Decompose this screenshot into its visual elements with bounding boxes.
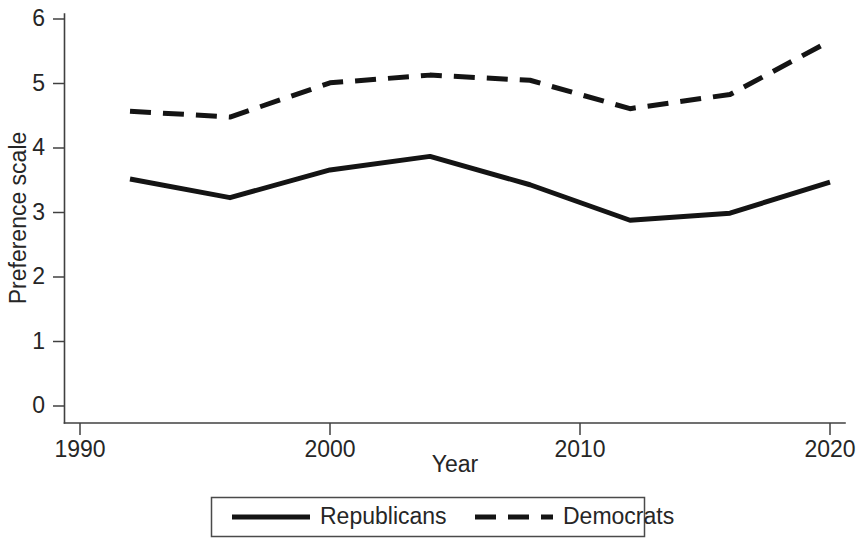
x-tick-label: 2020: [804, 436, 855, 462]
chart-legend: Republicans Democrats: [212, 498, 675, 537]
x-tick-label: 2010: [554, 436, 605, 462]
x-tick-label: 1990: [54, 436, 105, 462]
y-tick-label: 0: [32, 392, 45, 418]
x-axis-title: Year: [432, 451, 479, 477]
data-series-group: [130, 41, 830, 220]
chart-figure: 0123456 1990200020102020 Preference scal…: [0, 0, 856, 540]
x-tick-label: 2000: [304, 436, 355, 462]
y-axis-ticks: 0123456: [32, 5, 64, 418]
legend-label-democrats: Democrats: [563, 503, 674, 529]
y-tick-label: 4: [32, 134, 45, 160]
y-tick-label: 1: [32, 328, 45, 354]
y-tick-label: 2: [32, 263, 45, 289]
series-line-republicans: [130, 156, 830, 220]
series-line-democrats: [130, 41, 830, 117]
line-chart: 0123456 1990200020102020 Preference scal…: [0, 0, 856, 540]
y-tick-label: 6: [32, 5, 45, 31]
legend-label-republicans: Republicans: [320, 503, 447, 529]
y-tick-label: 5: [32, 70, 45, 96]
y-tick-label: 3: [32, 199, 45, 225]
y-axis-title: Preference scale: [5, 132, 31, 305]
